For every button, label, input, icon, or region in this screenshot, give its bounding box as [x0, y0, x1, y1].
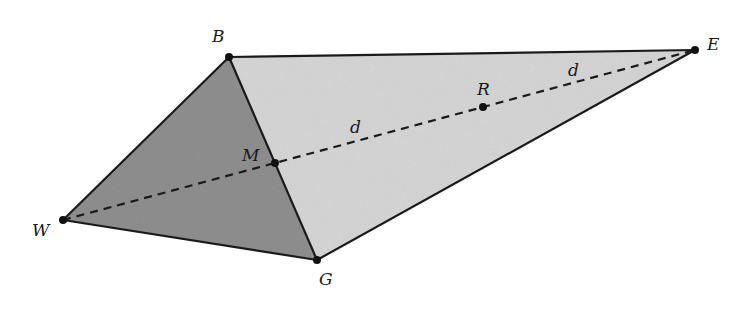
- label-W: W: [32, 220, 51, 240]
- point-G-dot: [313, 256, 321, 264]
- diagram-svg: B E W G M R d d: [0, 0, 751, 309]
- geometry-diagram: B E W G M R d d: [0, 0, 751, 309]
- label-M: M: [241, 145, 260, 165]
- label-R: R: [476, 79, 490, 99]
- label-B: B: [211, 26, 225, 46]
- label-d-MR: d: [350, 117, 361, 137]
- point-E-dot: [691, 46, 699, 54]
- point-W-dot: [59, 216, 67, 224]
- point-M-dot: [271, 159, 279, 167]
- point-B-dot: [225, 53, 233, 61]
- label-G: G: [319, 269, 333, 289]
- label-E: E: [706, 34, 720, 54]
- point-R-dot: [479, 103, 487, 111]
- label-d-RE: d: [568, 60, 579, 80]
